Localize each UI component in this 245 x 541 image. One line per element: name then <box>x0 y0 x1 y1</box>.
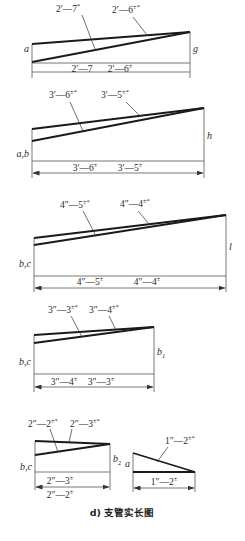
dimension-label: 3″—4±* <box>89 303 119 315</box>
true-length-triangle-d1: 2′—7*2′—6±*2′—72′—6±ag <box>24 2 198 78</box>
dimension-label: 4″—5± <box>77 275 104 287</box>
dimension-label: 4″—4± <box>134 275 161 287</box>
dimension-label: 2′—6±* <box>112 3 140 15</box>
hypotenuse-upper-line <box>34 327 154 335</box>
leader-line <box>70 102 83 131</box>
right-point-label: l <box>229 241 232 252</box>
hypotenuse-lower-line <box>34 215 226 245</box>
leader-line <box>50 429 58 452</box>
figure-caption: d) 支管实长图 <box>90 507 154 518</box>
left-point-label: a,b <box>17 148 30 159</box>
hypotenuse-line <box>133 453 195 472</box>
hypotenuse-lower-line <box>34 327 154 343</box>
leader-line <box>157 447 168 462</box>
leader-line <box>71 316 82 337</box>
dimension-label: 3′—6±* <box>49 88 77 100</box>
hypotenuse-lower-line <box>32 108 204 141</box>
leader-line <box>82 15 95 49</box>
left-point-label: a <box>125 458 130 469</box>
dimension-label: 3″—3± <box>88 375 115 387</box>
dimension-label: 2″—3±* <box>70 417 100 429</box>
dimension-label: 3″—4± <box>51 375 78 387</box>
dimension-label: 2′—7* <box>56 2 80 14</box>
left-point-label: b,c <box>19 356 32 367</box>
true-length-triangle-d6: 1″—2±*1″—2±a <box>125 434 195 492</box>
true-length-triangle-d2: 3′—6±*3′—5±*3′—6±3′—5±a,bh <box>17 88 213 178</box>
hypotenuse-upper-line <box>34 215 226 238</box>
dimension-label: 1″—2± <box>151 475 178 487</box>
dimension-label: 2″—2± <box>47 488 74 500</box>
leader-line <box>133 17 147 35</box>
dimension-label: 2′—7 <box>71 64 92 74</box>
leader-line <box>138 211 150 225</box>
right-point-label: g <box>193 43 198 54</box>
hypotenuse-upper-line <box>35 441 110 444</box>
true-length-triangle-d4: 3″—3±*3″—4±*3″—4±3″—3±b,cb1 <box>19 303 165 392</box>
left-point-label: a <box>24 43 29 54</box>
hypotenuse-lower-line <box>35 444 110 455</box>
true-length-triangle-d5: 2″—2±*2″—3±*2″—3±2″—2±b,cb2 <box>20 417 122 500</box>
right-point-label: b1 <box>157 346 165 359</box>
branch-pipe-true-length-diagram: 2′—7*2′—6±*2′—72′—6±ag3′—6±*3′—5±*3′—6±3… <box>0 0 245 541</box>
hypotenuse-lower-line <box>32 32 190 62</box>
true-length-triangle-d3: 4″—5±*4″—4±*4″—5±4″—4±b,cl <box>19 197 232 292</box>
dimension-label: 4″—4±* <box>120 197 150 209</box>
right-point-label: b2 <box>113 453 122 466</box>
left-point-label: b,c <box>20 461 33 472</box>
hypotenuse-upper-line <box>32 32 190 44</box>
dimension-label: 2″—3± <box>47 474 74 486</box>
dimension-label: 1″—2±* <box>165 434 195 446</box>
dimension-label: 4″—5±* <box>60 198 90 210</box>
dimension-label: 2″—2±* <box>28 417 58 429</box>
dimension-label: 3′—5±* <box>101 88 129 100</box>
leader-line <box>126 102 140 116</box>
leader-line <box>109 316 116 330</box>
dimension-label: 3′—5± <box>118 161 143 173</box>
leader-line <box>69 429 72 442</box>
left-point-label: b,c <box>19 258 32 269</box>
dimension-label: 3′—6± <box>73 161 98 173</box>
right-point-label: h <box>207 130 212 141</box>
dimension-label: 3″—3±* <box>48 303 78 315</box>
hypotenuse-upper-line <box>32 108 204 129</box>
